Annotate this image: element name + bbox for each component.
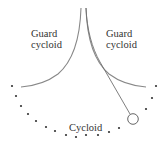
right-guard-label-line2: cycloid (106, 39, 138, 50)
pendulum-string (86, 8, 130, 114)
cycloid-label: Cycloid (69, 122, 103, 133)
cycloidal-pendulum-diagram: Guard cycloid Guard cycloid Cycloid (0, 0, 166, 146)
left-guard-label-line1: Guard (31, 28, 58, 39)
right-guard-label-line1: Guard (106, 28, 133, 39)
pendulum-bob (128, 114, 139, 125)
left-guard-label-line2: cycloid (31, 39, 63, 50)
